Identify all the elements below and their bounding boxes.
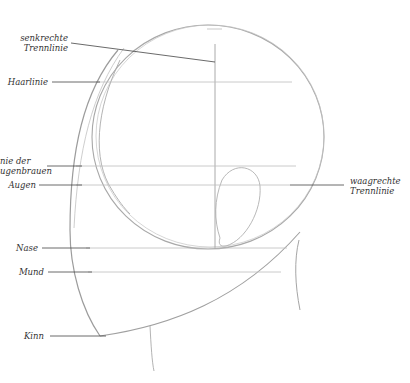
head-construction-sketch	[0, 0, 410, 383]
label-augen: Augen	[8, 180, 36, 190]
neck-front	[150, 326, 154, 371]
label-mund: Mund	[19, 267, 44, 277]
label-kinn: Kinn	[24, 331, 44, 341]
neck-back	[296, 240, 300, 310]
label-waagrechte-line2: Trennlinie	[350, 186, 401, 196]
label-augenbrauen-line2: ugenbrauen	[0, 166, 52, 176]
label-senkrechte-trennlinie: senkrechte Trennlinie	[20, 33, 68, 53]
label-augenbrauen-line1: nie der	[0, 156, 52, 166]
face-outline	[70, 50, 118, 336]
ear-shape	[216, 168, 260, 247]
label-senkrechte-line2: Trennlinie	[20, 43, 68, 53]
label-nase: Nase	[16, 243, 38, 253]
label-linie-der-augenbrauen: nie der ugenbrauen	[0, 156, 52, 176]
label-waagrechte-line1: waagrechte	[350, 176, 401, 186]
label-waagrechte-trennlinie: waagrechte Trennlinie	[350, 176, 401, 196]
label-senkrechte-line1: senkrechte	[20, 33, 68, 43]
label-haarlinie: Haarlinie	[8, 77, 48, 87]
